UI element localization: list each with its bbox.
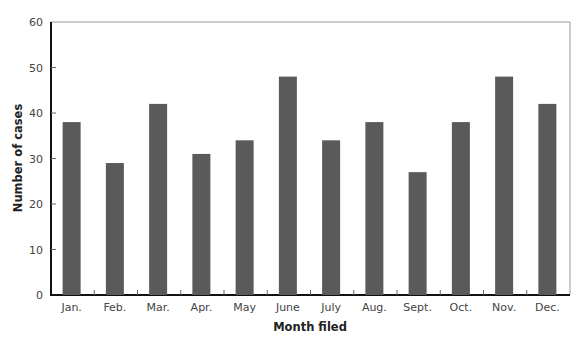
bar xyxy=(279,77,297,295)
x-tick-label: Feb. xyxy=(103,301,126,314)
y-tick-label: 0 xyxy=(36,289,43,302)
x-tick-label: Apr. xyxy=(191,301,213,314)
bar xyxy=(495,77,513,295)
y-tick-label: 60 xyxy=(29,16,43,29)
x-axis-title: Month filed xyxy=(273,320,347,334)
plot-frame xyxy=(51,22,570,296)
bar xyxy=(538,104,556,295)
bar xyxy=(452,122,470,295)
x-tick-label: June xyxy=(275,301,300,314)
bar xyxy=(236,140,254,295)
x-tick-label: Sept. xyxy=(403,301,432,314)
x-tick-label: Jan. xyxy=(60,301,81,314)
x-tick-label: Oct. xyxy=(450,301,473,314)
y-tick-label: 30 xyxy=(29,153,43,166)
bar xyxy=(192,154,210,295)
bar xyxy=(149,104,167,295)
x-axis-ticks: Jan.Feb.Mar.Apr.MayJuneJulyAug.Sept.Oct.… xyxy=(60,290,559,314)
bar xyxy=(106,163,124,295)
x-tick-label: July xyxy=(320,301,341,314)
y-tick-label: 20 xyxy=(29,198,43,211)
x-tick-label: Nov. xyxy=(492,301,516,314)
y-tick-label: 40 xyxy=(29,107,43,120)
x-tick-label: Aug. xyxy=(362,301,387,314)
bar xyxy=(322,140,340,295)
x-tick-label: Mar. xyxy=(147,301,170,314)
x-tick-label: Dec. xyxy=(535,301,560,314)
bar-chart: 0102030405060 Jan.Feb.Mar.Apr.MayJuneJul… xyxy=(0,0,581,342)
bar xyxy=(409,172,427,295)
bar xyxy=(365,122,383,295)
y-tick-label: 10 xyxy=(29,244,43,257)
y-axis-title: Number of cases xyxy=(11,104,25,213)
bars xyxy=(63,77,557,295)
y-tick-label: 50 xyxy=(29,62,43,75)
bar xyxy=(63,122,81,295)
x-tick-label: May xyxy=(233,301,256,314)
